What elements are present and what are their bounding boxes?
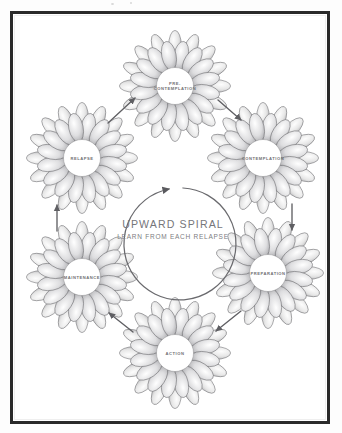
poster-frame: PRE- CONTEMPLATION CONTEMPLATION PREPARA… <box>10 11 330 424</box>
flower-node-action[interactable] <box>119 297 230 408</box>
flower-node-maintenance[interactable] <box>26 221 137 332</box>
flower-node-preparation[interactable] <box>212 217 323 328</box>
flower-node-relapse[interactable] <box>26 102 137 213</box>
cycle-diagram-svg <box>13 14 327 421</box>
scan-artifact <box>130 2 132 4</box>
diagram-canvas: PRE- CONTEMPLATION CONTEMPLATION PREPARA… <box>13 14 327 421</box>
flower-node-contemplation[interactable] <box>207 102 318 213</box>
edge-pre-contemplation-to-contemplation <box>218 100 241 120</box>
circular-arrow-icon <box>124 188 236 300</box>
poster-scan: PRE- CONTEMPLATION CONTEMPLATION PREPARA… <box>0 0 342 433</box>
flower-node-pre-contemplation[interactable] <box>119 30 230 141</box>
edge-preparation-to-action <box>216 311 241 331</box>
scan-artifact <box>111 3 114 5</box>
